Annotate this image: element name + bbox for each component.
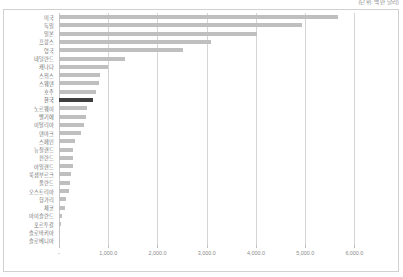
bar-row[interactable] — [59, 112, 379, 120]
category-label: 미국 — [0, 13, 57, 21]
bar[interactable] — [59, 106, 87, 110]
bar[interactable] — [59, 148, 73, 152]
category-label: 한국 — [0, 96, 57, 104]
category-label: 스페인 — [0, 137, 57, 145]
bar-row[interactable] — [59, 121, 379, 129]
bar[interactable] — [59, 23, 302, 27]
bar-row[interactable] — [59, 71, 379, 79]
bar-row[interactable] — [59, 237, 379, 245]
chart-screenshot: (단위: 백만 달러) 미국독일일본프랑스영국네덜란드캐나다스위스스웨덴호주한국… — [0, 0, 403, 277]
bar[interactable] — [59, 65, 108, 69]
bar-series — [59, 13, 379, 245]
category-label: 이탈리아 — [0, 121, 57, 129]
bar[interactable] — [59, 98, 93, 102]
x-tick — [207, 245, 208, 248]
bar-row[interactable] — [59, 54, 379, 62]
category-label: 캐나다 — [0, 63, 57, 71]
bar[interactable] — [59, 15, 338, 19]
x-axis-labels: -1,000.02,000.03,000.04,000.05,000.06,00… — [59, 250, 379, 262]
bar[interactable] — [59, 139, 75, 143]
bar[interactable] — [59, 239, 60, 243]
category-label: 덴마크 — [0, 129, 57, 137]
category-label: 핀란드 — [0, 154, 57, 162]
bar[interactable] — [59, 181, 70, 185]
x-tick-label: 6,000.0 — [345, 250, 363, 256]
bar-row[interactable] — [59, 30, 379, 38]
plot-area — [59, 13, 379, 245]
unit-annotation: (단위: 백만 달러) — [358, 0, 399, 6]
bar-row[interactable] — [59, 162, 379, 170]
category-label: 프랑스 — [0, 38, 57, 46]
bar-row[interactable] — [59, 88, 379, 96]
x-tick — [157, 245, 158, 248]
category-label: 네덜란드 — [0, 54, 57, 62]
category-label: 일본 — [0, 30, 57, 38]
bar-row[interactable] — [59, 79, 379, 87]
category-label: 아이슬란드 — [0, 212, 57, 220]
x-tick-label: 5,000.0 — [296, 250, 314, 256]
bar-row[interactable] — [59, 187, 379, 195]
bar-row[interactable] — [59, 13, 379, 21]
x-tick — [256, 245, 257, 248]
bar-row[interactable] — [59, 170, 379, 178]
x-tick-label: - — [58, 250, 60, 256]
bar[interactable] — [59, 73, 100, 77]
category-label: 스웨덴 — [0, 79, 57, 87]
bar-row[interactable] — [59, 96, 379, 104]
bar-row[interactable] — [59, 146, 379, 154]
category-label: 슬로베니아 — [0, 237, 57, 245]
bar[interactable] — [59, 222, 61, 226]
category-label: 독일 — [0, 21, 57, 29]
bar-row[interactable] — [59, 228, 379, 236]
category-axis-labels: 미국독일일본프랑스영국네덜란드캐나다스위스스웨덴호주한국노르웨이벨기에이탈리아덴… — [0, 13, 57, 245]
bar-row[interactable] — [59, 203, 379, 211]
bar[interactable] — [59, 230, 60, 234]
bar[interactable] — [59, 115, 86, 119]
bar[interactable] — [59, 81, 99, 85]
bar[interactable] — [59, 206, 65, 210]
bar[interactable] — [59, 164, 73, 168]
bar[interactable] — [59, 123, 84, 127]
category-label: 호주 — [0, 88, 57, 96]
category-label: 포르투갈 — [0, 220, 57, 228]
category-label: 폴란드 — [0, 179, 57, 187]
category-label: 룩셈부르크 — [0, 170, 57, 178]
x-tick — [108, 245, 109, 248]
bar[interactable] — [59, 156, 73, 160]
category-label: 영국 — [0, 46, 57, 54]
bar-row[interactable] — [59, 179, 379, 187]
bar-row[interactable] — [59, 212, 379, 220]
x-tick — [305, 245, 306, 248]
bar[interactable] — [59, 214, 62, 218]
category-label: 체코 — [0, 203, 57, 211]
category-label: 헝가리 — [0, 195, 57, 203]
bar[interactable] — [59, 32, 257, 36]
bar[interactable] — [59, 131, 81, 135]
category-label: 오스트리아 — [0, 187, 57, 195]
bar[interactable] — [59, 189, 69, 193]
bar[interactable] — [59, 40, 211, 44]
bar-row[interactable] — [59, 137, 379, 145]
category-label: 스위스 — [0, 71, 57, 79]
bar-row[interactable] — [59, 38, 379, 46]
category-label: 노르웨이 — [0, 104, 57, 112]
category-label: 아일랜드 — [0, 162, 57, 170]
bar-row[interactable] — [59, 129, 379, 137]
bar-row[interactable] — [59, 63, 379, 71]
bar-row[interactable] — [59, 195, 379, 203]
bar[interactable] — [59, 48, 183, 52]
x-tick-label: 2,000.0 — [148, 250, 166, 256]
bar[interactable] — [59, 197, 66, 201]
bar-row[interactable] — [59, 220, 379, 228]
bar[interactable] — [59, 57, 125, 61]
bar-row[interactable] — [59, 154, 379, 162]
x-axis-ticks — [59, 245, 379, 249]
bar[interactable] — [59, 172, 71, 176]
x-tick-label: 4,000.0 — [247, 250, 265, 256]
x-tick — [354, 245, 355, 248]
bar[interactable] — [59, 90, 96, 94]
bar-row[interactable] — [59, 46, 379, 54]
bar-row[interactable] — [59, 104, 379, 112]
bar-row[interactable] — [59, 21, 379, 29]
category-label: 벨기에 — [0, 112, 57, 120]
